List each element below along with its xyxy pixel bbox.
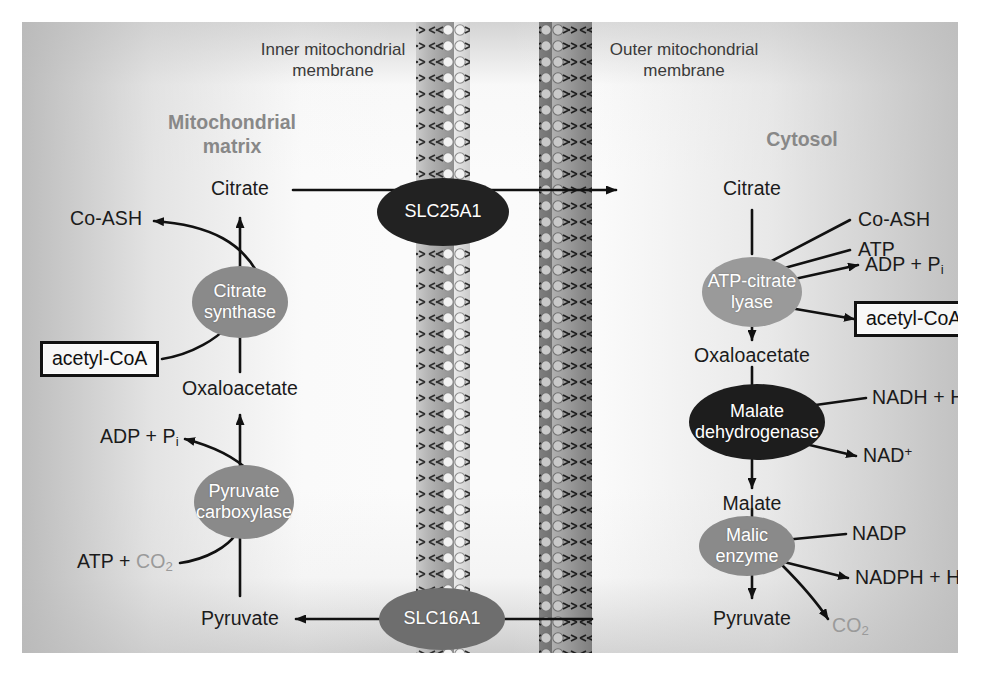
- arrow-lyase-to-acetyl-coa: [790, 308, 854, 319]
- metabolite-cyt-coash: Co-ASH: [858, 208, 930, 231]
- metabolite-matrix-atp-co2: ATP + CO2: [77, 550, 173, 575]
- arrow-atp-co2-to-pyruvate-carboxylase: [180, 534, 236, 563]
- inner-membrane-bilayer: [416, 22, 470, 653]
- enzyme-label-pyruvate-carboxylase: Pyruvatecarboxylase: [196, 481, 292, 523]
- metabolite-matrix-pyruvate: Pyruvate: [201, 607, 279, 630]
- metabolite-cyt-pyruvate: Pyruvate: [713, 607, 791, 630]
- co2-text: CO: [136, 550, 165, 572]
- metabolite-cyt-malate: Malate: [722, 492, 781, 515]
- metabolite-matrix-oxaloacetate: Oxaloacetate: [182, 377, 298, 400]
- metabolite-matrix-citrate: Citrate: [211, 177, 269, 200]
- transporter-label-slc25a1: SLC25A1: [404, 201, 481, 222]
- region-label-cytosol: Cytosol: [766, 127, 838, 151]
- metabolite-matrix-adp-pi: ADP + Pi: [100, 425, 179, 450]
- metabolite-cyt-oxaloacetate: Oxaloacetate: [694, 344, 810, 367]
- arrow-lyase-to-adp-pi: [790, 265, 858, 280]
- pathway-figure: Mitochondrialmatrix Cytosol Inner mitoch…: [22, 22, 958, 653]
- metabolite-cyt-nadh: NADH + H+: [872, 386, 958, 409]
- metabolite-cyt-adp-pi: ADP + Pi: [865, 253, 944, 278]
- metabolite-cyt-co2: CO2: [832, 614, 869, 639]
- arrow-coash-to-lyase: [764, 220, 850, 265]
- metabolite-cyt-nadp: NADP: [852, 522, 907, 545]
- enzyme-label-malate-dehydrogenase: Malatedehydrogenase: [695, 401, 819, 443]
- enzyme-label-malic-enzyme: Malicenzyme: [715, 525, 778, 567]
- box-matrix-acetyl-coa: acetyl-CoA: [40, 341, 159, 377]
- enzyme-label-atp-citrate-lyase: ATP-citratelyase: [708, 271, 797, 313]
- enzyme-label-citrate-synthase: Citratesynthase: [204, 281, 276, 323]
- box-cyt-acetyl-coa: acetyl-CoA: [854, 301, 958, 337]
- membrane-label-inner: Inner mitochondrialmembrane: [261, 40, 406, 81]
- metabolite-cyt-nad: NAD+: [863, 444, 912, 467]
- outer-membrane-bilayer: [539, 22, 592, 653]
- metabolite-cyt-nadph: NADPH + H+: [855, 566, 958, 589]
- metabolite-cyt-citrate: Citrate: [723, 177, 781, 200]
- region-label-matrix: Mitochondrialmatrix: [168, 110, 296, 159]
- transporter-label-slc16a1: SLC16A1: [403, 608, 480, 629]
- membrane-label-outer: Outer mitochondrialmembrane: [610, 40, 758, 81]
- metabolite-matrix-coash: Co-ASH: [70, 207, 142, 230]
